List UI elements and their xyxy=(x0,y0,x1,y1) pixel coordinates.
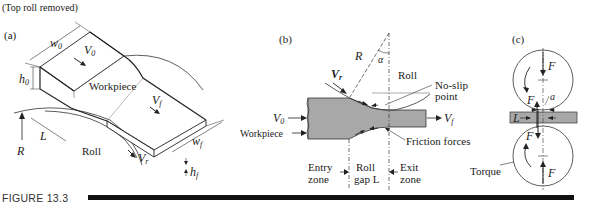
c-f-bottom-label: F xyxy=(548,167,555,179)
c-f-top-label: F xyxy=(548,60,555,72)
figure-caption: FIGURE 13.3 xyxy=(2,192,68,204)
c-a-label: a xyxy=(550,91,555,103)
c-l-label: L xyxy=(513,112,520,124)
panel-c-drawing xyxy=(0,0,590,211)
c-f-left-label: F xyxy=(527,94,534,106)
torque-label: Torque xyxy=(470,165,501,177)
caption-bar xyxy=(88,195,574,200)
c-f-lower-left-label: F xyxy=(526,130,533,142)
